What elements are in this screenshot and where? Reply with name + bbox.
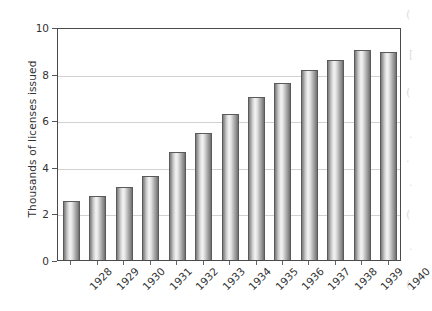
y-tick-label-0: 0 — [23, 255, 49, 267]
bar-1940 — [380, 52, 397, 261]
x-axis-tick-labels: 1928192919301931193219331934193519361937… — [57, 261, 401, 311]
y-tick-label-4: 4 — [23, 162, 49, 174]
x-tick-mark-1933 — [203, 261, 204, 265]
y-tick-label-2: 2 — [23, 208, 49, 220]
x-tick-label-1936: 1936 — [299, 265, 326, 292]
scan-artifact: ( — [406, 86, 410, 99]
x-tick-label-1940: 1940 — [405, 265, 432, 292]
x-tick-label-1938: 1938 — [352, 265, 379, 292]
y-tick-label-10: 10 — [23, 22, 49, 34]
x-tick-mark-1940 — [388, 261, 389, 265]
y-tick-label-8: 8 — [23, 69, 49, 81]
bar-1928 — [63, 201, 80, 260]
x-tick-mark-1932 — [176, 261, 177, 265]
scan-artifact: . — [409, 128, 413, 141]
scan-artifact: . — [409, 240, 413, 253]
plot-area — [57, 28, 401, 261]
bar-1936 — [274, 83, 291, 260]
bar-1935 — [248, 97, 265, 260]
x-tick-label-1929: 1929 — [114, 265, 141, 292]
scan-artifact: ( — [406, 8, 410, 21]
x-tick-label-1937: 1937 — [325, 265, 352, 292]
bar-1937 — [301, 70, 318, 260]
bar-1929 — [89, 196, 106, 260]
scan-artifact: . — [409, 176, 413, 189]
x-tick-mark-1935 — [256, 261, 257, 265]
bar-1931 — [142, 176, 159, 260]
x-tick-label-1931: 1931 — [166, 265, 193, 292]
bar-1939 — [354, 50, 371, 260]
y-tick-label-6: 6 — [23, 115, 49, 127]
x-tick-mark-1934 — [229, 261, 230, 265]
x-tick-label-1933: 1933 — [219, 265, 246, 292]
x-tick-label-1934: 1934 — [246, 265, 273, 292]
x-tick-label-1932: 1932 — [193, 265, 220, 292]
x-tick-label-1939: 1939 — [378, 265, 405, 292]
x-tick-mark-1939 — [361, 261, 362, 265]
scan-artifacts: ([(...(.( — [402, 0, 422, 311]
scan-artifact: ( — [406, 208, 410, 221]
y-axis-tick-labels: 0246810 — [19, 28, 49, 261]
bar-1930 — [116, 187, 133, 260]
bar-1933 — [195, 133, 212, 260]
x-tick-mark-1928 — [70, 261, 71, 265]
x-tick-label-1930: 1930 — [140, 265, 167, 292]
x-tick-mark-1929 — [97, 261, 98, 265]
bars-series — [58, 29, 400, 260]
scan-artifact: [ — [409, 48, 413, 61]
x-tick-label-1935: 1935 — [272, 265, 299, 292]
x-tick-mark-1931 — [150, 261, 151, 265]
bar-1938 — [327, 60, 344, 260]
bar-1934 — [222, 114, 239, 260]
x-tick-mark-1938 — [335, 261, 336, 265]
x-tick-mark-1936 — [282, 261, 283, 265]
scan-artifact: . — [406, 152, 410, 165]
x-tick-mark-1930 — [123, 261, 124, 265]
x-tick-mark-1937 — [308, 261, 309, 265]
bar-1932 — [169, 152, 186, 260]
x-tick-label-1928: 1928 — [87, 265, 114, 292]
